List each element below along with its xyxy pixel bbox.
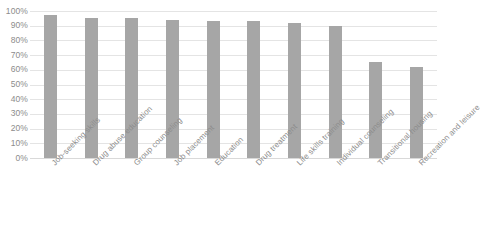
y-tick-label: 100%: [0, 7, 28, 16]
y-tick-label: 0%: [0, 154, 28, 163]
y-tick-label: 80%: [0, 36, 28, 45]
y-tick-label: 10%: [0, 139, 28, 148]
y-tick-label: 50%: [0, 80, 28, 89]
y-tick-label: 90%: [0, 21, 28, 30]
y-tick-label: 70%: [0, 51, 28, 60]
bar-slot: [30, 11, 71, 158]
bar[interactable]: [410, 67, 423, 158]
y-tick-label: 20%: [0, 124, 28, 133]
plot-area: [30, 11, 437, 158]
y-tick-label: 40%: [0, 95, 28, 104]
y-tick-label: 30%: [0, 109, 28, 118]
bar[interactable]: [247, 21, 260, 158]
bar-series: [30, 11, 437, 158]
bar[interactable]: [369, 62, 382, 158]
y-tick-label: 60%: [0, 65, 28, 74]
bar[interactable]: [44, 15, 57, 158]
y-axis: 100%90%80%70%60%50%40%30%20%10%0%: [0, 0, 28, 165]
x-axis: Job-seeking skillsDrug abuse educationGr…: [30, 159, 437, 251]
bar[interactable]: [329, 26, 342, 158]
bar[interactable]: [207, 21, 220, 158]
